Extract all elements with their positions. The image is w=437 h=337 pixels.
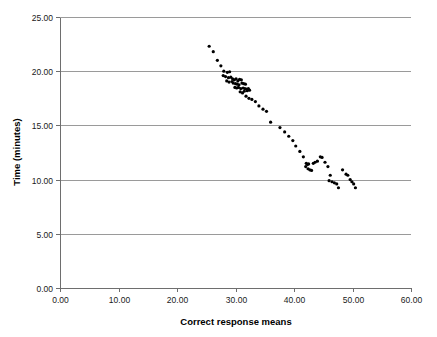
x-tick-label: 50.00: [343, 295, 365, 305]
data-point: [222, 70, 225, 73]
x-tick-label: 60.00: [401, 295, 423, 305]
data-point: [346, 174, 349, 177]
data-point: [208, 45, 211, 48]
data-point: [240, 78, 243, 81]
y-tick-label: 20.00: [32, 67, 54, 77]
data-point: [216, 59, 219, 62]
x-axis-ticks: 0.0010.0020.0030.0040.0050.0060.00: [52, 288, 422, 305]
data-point: [244, 83, 247, 86]
y-tick-label: 0.00: [36, 284, 53, 294]
data-point: [227, 80, 230, 83]
data-point: [228, 70, 231, 73]
scatter-chart: 0.005.0010.0015.0020.0025.00 0.0010.0020…: [0, 0, 437, 337]
data-point: [329, 174, 332, 177]
data-point: [257, 104, 260, 107]
data-point: [316, 160, 319, 163]
y-tick-label: 10.00: [32, 176, 54, 186]
y-tick-label: 15.00: [32, 121, 54, 131]
data-point: [283, 130, 286, 133]
data-point: [250, 98, 253, 101]
data-point: [247, 97, 250, 100]
data-point: [328, 179, 331, 182]
x-tick-label: 20.00: [167, 295, 189, 305]
x-tick-label: 30.00: [226, 295, 248, 305]
data-points: [208, 45, 357, 190]
data-point: [302, 155, 305, 158]
data-point: [354, 186, 357, 189]
data-point: [320, 156, 323, 159]
y-axis-title: Time (minutes): [11, 118, 22, 185]
data-point: [254, 100, 257, 103]
chart-canvas: 0.005.0010.0015.0020.0025.00 0.0010.0020…: [0, 0, 437, 337]
data-point: [224, 75, 227, 78]
x-tick-label: 10.00: [109, 295, 131, 305]
data-point: [294, 144, 297, 147]
y-axis-ticks: 0.005.0010.0015.0020.0025.00: [32, 13, 60, 294]
data-point: [287, 135, 290, 138]
data-point: [237, 83, 240, 86]
data-point: [291, 139, 294, 142]
data-point: [298, 150, 301, 153]
x-tick-label: 0.00: [52, 295, 69, 305]
data-point: [278, 126, 281, 129]
data-point: [335, 182, 338, 185]
data-point: [212, 50, 215, 53]
data-point: [244, 95, 247, 98]
data-point: [326, 165, 329, 168]
axis-lines: [60, 17, 411, 289]
x-tick-label: 40.00: [284, 295, 306, 305]
data-point: [310, 169, 313, 172]
y-tick-label: 5.00: [36, 230, 53, 240]
data-point: [248, 89, 251, 92]
data-point: [352, 182, 355, 185]
data-point: [304, 165, 307, 168]
data-point: [219, 64, 222, 67]
data-point: [243, 90, 246, 93]
y-tick-label: 25.00: [32, 13, 54, 23]
data-point: [323, 161, 326, 164]
data-point: [337, 186, 340, 189]
gridlines: [60, 18, 411, 235]
data-point: [341, 168, 344, 171]
data-point: [269, 121, 272, 124]
data-point: [307, 162, 310, 165]
data-point: [261, 108, 264, 111]
x-axis-title: Correct response means: [180, 316, 291, 327]
data-point: [265, 110, 268, 113]
